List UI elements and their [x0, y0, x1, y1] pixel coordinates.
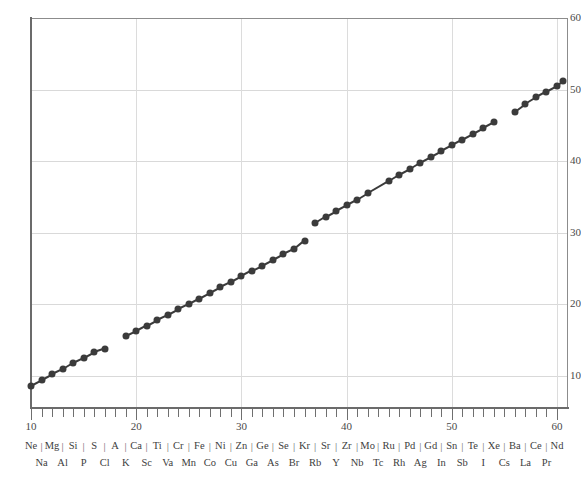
x-tick — [389, 409, 390, 417]
element-separator: | — [104, 440, 106, 452]
element-label-ti: Ti — [153, 440, 162, 452]
element-label-kr: Kr — [299, 440, 310, 452]
data-point — [28, 382, 35, 389]
element-label-ce: Ce — [530, 440, 542, 452]
x-tick — [536, 409, 537, 417]
x-tick — [399, 409, 400, 417]
gridline-y-30 — [32, 233, 567, 234]
y-tick-label: 60 — [557, 12, 581, 23]
element-separator: | — [61, 440, 63, 452]
y-tick-label: 50 — [557, 84, 581, 95]
data-point — [301, 237, 308, 244]
element-label-nb: Nb — [351, 457, 364, 469]
x-tick-label: 30 — [236, 421, 247, 432]
element-separator: | — [125, 440, 127, 452]
data-point — [560, 77, 567, 84]
y-tick-label: 10 — [557, 370, 581, 381]
element-label-mo: Mo — [360, 440, 375, 452]
element-separator: | — [356, 440, 358, 452]
element-label-pd: Pd — [404, 440, 415, 452]
x-tick — [462, 409, 463, 417]
x-tick — [73, 409, 74, 417]
x-tick — [241, 409, 242, 420]
x-tick — [441, 409, 442, 417]
data-point — [385, 178, 392, 185]
x-tick-label: 50 — [446, 421, 457, 432]
data-point — [269, 256, 276, 263]
x-tick — [42, 409, 43, 417]
element-separator: | — [461, 440, 463, 452]
data-point — [185, 301, 192, 308]
x-tick — [231, 409, 232, 417]
x-axis-line — [30, 407, 569, 409]
data-point — [238, 273, 245, 280]
x-tick — [557, 409, 558, 420]
element-label-sn: Sn — [446, 440, 457, 452]
element-label-ca: Ca — [130, 440, 142, 452]
element-label-ru: Ru — [383, 440, 395, 452]
data-point — [364, 190, 371, 197]
element-label-s: S — [91, 440, 97, 452]
x-tick — [168, 409, 169, 417]
element-label-ba: Ba — [509, 440, 521, 452]
element-label-la: La — [520, 457, 531, 469]
data-point — [522, 100, 529, 107]
x-tick — [515, 409, 516, 417]
x-tick — [273, 409, 274, 417]
data-point — [490, 119, 497, 126]
x-tick — [157, 409, 158, 417]
data-point — [80, 354, 87, 361]
x-tick — [326, 409, 327, 417]
data-point — [70, 359, 77, 366]
data-point — [322, 213, 329, 220]
x-tick — [431, 409, 432, 417]
element-label-k: K — [122, 457, 130, 469]
element-separator: | — [419, 440, 421, 452]
element-label-a: A — [111, 440, 119, 452]
data-point — [122, 333, 129, 340]
data-point — [480, 125, 487, 132]
data-point — [427, 153, 434, 160]
x-tick — [52, 409, 53, 417]
element-label-tc: Tc — [373, 457, 383, 469]
element-separator: | — [440, 440, 442, 452]
data-point — [469, 130, 476, 137]
element-separator: | — [398, 440, 400, 452]
gridline-y-40 — [32, 161, 567, 162]
x-tick — [63, 409, 64, 417]
x-tick — [147, 409, 148, 417]
x-tick — [305, 409, 306, 417]
element-label-i: I — [482, 457, 486, 469]
gridline-x-40 — [347, 19, 348, 407]
x-tick — [494, 409, 495, 417]
data-point — [248, 267, 255, 274]
x-tick — [84, 409, 85, 417]
data-point — [227, 279, 234, 286]
element-label-cs: Cs — [499, 457, 510, 469]
element-separator: | — [272, 440, 274, 452]
x-tick — [178, 409, 179, 417]
element-label-zn: Zn — [236, 440, 248, 452]
element-label-mn: Mn — [182, 457, 197, 469]
x-tick — [315, 409, 316, 417]
element-symbol-axis: NeMgSiSACaTiCrFeNiZnGeSeKrSrZrMoRuPdGdSn… — [0, 440, 581, 490]
x-tick — [294, 409, 295, 417]
x-tick — [357, 409, 358, 417]
element-label-na: Na — [35, 457, 47, 469]
element-label-sb: Sb — [457, 457, 468, 469]
element-separator: | — [503, 440, 505, 452]
data-point — [196, 295, 203, 302]
element-label-cr: Cr — [173, 440, 184, 452]
x-tick — [126, 409, 127, 417]
gridline-x-30 — [241, 19, 242, 407]
data-point — [59, 366, 66, 373]
x-tick-label: 40 — [341, 421, 352, 432]
x-tick — [210, 409, 211, 417]
element-label-y: Y — [332, 457, 340, 469]
element-label-co: Co — [204, 457, 216, 469]
x-tick — [220, 409, 221, 417]
element-label-ag: Ag — [414, 457, 427, 469]
data-point — [459, 136, 466, 143]
x-tick — [189, 409, 190, 417]
y-tick-label: 30 — [557, 227, 581, 238]
